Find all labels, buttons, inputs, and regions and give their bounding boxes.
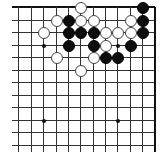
white-stone xyxy=(75,65,87,77)
black-stone xyxy=(137,2,149,14)
white-stone xyxy=(75,2,87,14)
black-stone xyxy=(63,40,75,52)
board-edge-right xyxy=(154,7,156,152)
star-point xyxy=(116,119,120,123)
grid-line-horizontal xyxy=(12,145,155,146)
white-stone xyxy=(125,27,137,39)
white-stone xyxy=(112,27,124,39)
white-stone xyxy=(51,15,63,27)
black-stone xyxy=(75,27,87,39)
grid-line-horizontal xyxy=(12,82,155,83)
white-stone xyxy=(51,52,63,64)
grid-line-vertical xyxy=(18,7,19,152)
star-point xyxy=(42,119,46,123)
star-point xyxy=(42,44,46,48)
black-stone xyxy=(88,27,100,39)
white-stone xyxy=(75,15,87,27)
go-board xyxy=(0,0,163,156)
black-stone xyxy=(112,52,124,64)
grid-line-horizontal xyxy=(12,120,155,121)
grid-line-horizontal xyxy=(12,107,155,108)
black-stone xyxy=(100,52,112,64)
grid-line-vertical xyxy=(31,7,32,152)
black-stone xyxy=(137,15,149,27)
white-stone xyxy=(100,40,112,52)
white-stone xyxy=(88,15,100,27)
black-stone xyxy=(63,15,75,27)
grid-line-horizontal xyxy=(12,132,155,133)
black-stone xyxy=(137,27,149,39)
white-stone xyxy=(38,27,50,39)
grid-line-horizontal xyxy=(12,57,155,58)
white-stone xyxy=(100,27,112,39)
black-stone xyxy=(88,40,100,52)
grid-line-horizontal xyxy=(12,95,155,96)
black-stone xyxy=(125,40,137,52)
grid-line-vertical xyxy=(56,7,57,152)
star-point xyxy=(116,44,120,48)
white-stone xyxy=(88,52,100,64)
black-stone xyxy=(63,27,75,39)
white-stone xyxy=(125,15,137,27)
